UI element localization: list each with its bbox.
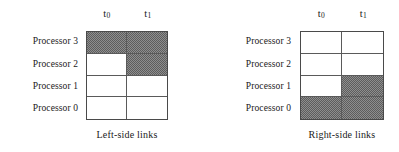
cell-p3-t1 <box>127 32 167 54</box>
column-header-t1: t1 <box>127 9 168 29</box>
cell-p0-t1 <box>127 97 167 119</box>
cell-p1-t0 <box>87 76 127 98</box>
panel-left-side-links: t0 t1 Processor 3 Processor 2 Processor … <box>0 0 199 152</box>
cell-p0-t1 <box>342 97 383 119</box>
links-schedule-figure: t0 t1 Processor 3 Processor 2 Processor … <box>0 0 399 152</box>
row-label-processor-1: Processor 1 <box>215 76 295 98</box>
cell-p2-t0 <box>87 54 127 76</box>
caption-left-side-links: Left-side links <box>86 126 168 144</box>
row-label-processor-0: Processor 0 <box>8 98 82 120</box>
cell-p3-t1 <box>342 32 383 54</box>
column-header-t0-subscript: 0 <box>321 12 325 20</box>
column-header-t1-subscript: 1 <box>147 12 151 20</box>
column-header-t1-subscript: 1 <box>363 12 367 20</box>
row-label-processor-2: Processor 2 <box>215 53 295 75</box>
row-labels-right: Processor 3 Processor 2 Processor 1 Proc… <box>215 31 295 120</box>
cell-p3-t0 <box>87 32 127 54</box>
row-label-processor-3: Processor 3 <box>8 31 82 53</box>
column-headers-left: t0 t1 <box>86 9 168 29</box>
cell-p1-t1 <box>127 76 167 98</box>
row-labels-left: Processor 3 Processor 2 Processor 1 Proc… <box>8 31 82 120</box>
cell-p0-t0 <box>87 97 127 119</box>
column-headers-right: t0 t1 <box>300 9 384 29</box>
column-header-t0: t0 <box>300 9 342 29</box>
cell-p1-t1 <box>342 76 383 98</box>
panel-right-side-links: t0 t1 Processor 3 Processor 2 Processor … <box>199 0 399 152</box>
cell-p2-t0 <box>301 54 342 76</box>
grid-left-side-links <box>86 31 168 120</box>
column-header-t0: t0 <box>86 9 127 29</box>
column-header-t1: t1 <box>342 9 384 29</box>
cell-p0-t0 <box>301 97 342 119</box>
cell-p2-t1 <box>342 54 383 76</box>
row-label-processor-2: Processor 2 <box>8 53 82 75</box>
caption-right-side-links: Right-side links <box>300 126 384 144</box>
cell-p1-t0 <box>301 76 342 98</box>
grid-right-side-links <box>300 31 384 120</box>
column-header-t0-subscript: 0 <box>106 12 110 20</box>
cell-p3-t0 <box>301 32 342 54</box>
cell-p2-t1 <box>127 54 167 76</box>
row-label-processor-0: Processor 0 <box>215 98 295 120</box>
row-label-processor-1: Processor 1 <box>8 76 82 98</box>
row-label-processor-3: Processor 3 <box>215 31 295 53</box>
